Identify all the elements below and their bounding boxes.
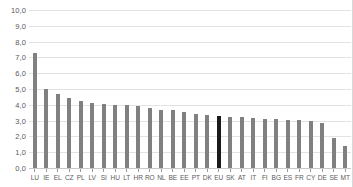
bar-slot — [213, 10, 225, 168]
bar-bg — [274, 119, 278, 168]
bar-cz — [67, 98, 71, 168]
y-axis: 10,09,08,07,06,05,04,03,02,01,00,0 — [0, 0, 29, 178]
x-axis-tick-mark — [184, 169, 185, 172]
x-axis-tick-label: ES — [283, 174, 292, 181]
x-axis-tick-label: EE — [180, 174, 189, 181]
x-axis-tick-label: LV — [89, 174, 96, 181]
bar-slot — [144, 10, 156, 168]
x-axis-tick-label: DK — [203, 174, 212, 181]
x-axis-tick-label: IT — [250, 174, 256, 181]
x-axis-slot: NL — [156, 169, 168, 187]
bar-it — [251, 118, 255, 168]
x-axis-tick-label: FR — [295, 174, 304, 181]
x-axis-slot: SE — [328, 169, 340, 187]
x-axis-tick-label: LT — [123, 174, 130, 181]
x-axis-tick-mark — [345, 169, 346, 172]
bar-ie — [44, 89, 48, 168]
x-axis-tick-mark — [57, 169, 58, 172]
x-axis-tick-mark — [276, 169, 277, 172]
x-axis-slot: HU — [110, 169, 122, 187]
bar-es — [286, 120, 290, 169]
x-axis-tick-label: EU — [214, 174, 223, 181]
bar-slot — [52, 10, 64, 168]
bar-se — [332, 138, 336, 168]
bar-slot — [225, 10, 237, 168]
bar-slot — [317, 10, 329, 168]
x-axis-slot: PL — [75, 169, 87, 187]
x-axis-tick-mark — [103, 169, 104, 172]
x-axis-tick-label: SK — [226, 174, 235, 181]
x-axis-tick-mark — [241, 169, 242, 172]
x-axis-slot: LU — [29, 169, 41, 187]
x-axis-tick-mark — [299, 169, 300, 172]
bar-slot — [282, 10, 294, 168]
x-axis-slot: BG — [271, 169, 283, 187]
x-axis-tick-mark — [218, 169, 219, 172]
x-axis-tick-label: CZ — [65, 174, 74, 181]
bar-lt — [125, 105, 129, 168]
x-axis-tick-label: AT — [238, 174, 246, 181]
y-axis-tick-label: 2,0 — [15, 132, 26, 141]
bar-slot — [236, 10, 248, 168]
y-axis-tick-label: 1,0 — [15, 148, 26, 157]
x-axis-slot: DE — [317, 169, 329, 187]
x-axis-slot: FR — [294, 169, 306, 187]
x-axis-slot: CZ — [64, 169, 76, 187]
x-axis: LUIEELCZPLLVSIHULTHRRONLBEEEPTDKEUSKATIT… — [29, 169, 351, 187]
bar-at — [240, 117, 244, 168]
x-axis-slot: IE — [41, 169, 53, 187]
bar-sk — [228, 117, 232, 168]
bar-slot — [202, 10, 214, 168]
x-axis-tick-label: SI — [101, 174, 107, 181]
x-axis-tick-label: DE — [318, 174, 327, 181]
x-axis-tick-mark — [287, 169, 288, 172]
bar-be — [171, 110, 175, 168]
bar-hu — [113, 105, 117, 168]
x-axis-tick-label: FI — [262, 174, 268, 181]
x-axis-slot: HR — [133, 169, 145, 187]
bar-dk — [205, 115, 209, 168]
x-axis-tick-label: NL — [157, 174, 165, 181]
bar-slot — [294, 10, 306, 168]
bar-fr — [297, 120, 301, 168]
x-axis-tick-mark — [264, 169, 265, 172]
x-axis-tick-label: HR — [134, 174, 143, 181]
bar-slot — [121, 10, 133, 168]
bar-lu — [33, 53, 37, 168]
bar-cy — [309, 121, 313, 168]
y-axis-tick-label: 7,0 — [15, 53, 26, 62]
bar-slot — [340, 10, 352, 168]
bar-nl — [159, 110, 163, 168]
x-axis-tick-mark — [230, 169, 231, 172]
x-axis-tick-mark — [195, 169, 196, 172]
y-axis-tick-label: 5,0 — [15, 85, 26, 94]
x-axis-tick-mark — [310, 169, 311, 172]
bar-slot — [190, 10, 202, 168]
y-axis-tick-label: 10,0 — [11, 6, 26, 15]
y-axis-tick-label: 0,0 — [15, 164, 26, 173]
bar-slot — [41, 10, 53, 168]
bar-fi — [263, 119, 267, 168]
bars-layer — [29, 10, 351, 168]
x-axis-tick-label: LU — [31, 174, 39, 181]
x-axis-tick-mark — [149, 169, 150, 172]
x-axis-tick-label: EL — [54, 174, 62, 181]
bar-slot — [98, 10, 110, 168]
bar-slot — [29, 10, 41, 168]
x-axis-tick-mark — [207, 169, 208, 172]
bar-highlight-eu — [217, 116, 221, 168]
x-axis-slot: DK — [202, 169, 214, 187]
x-axis-tick-mark — [161, 169, 162, 172]
bar-slot — [110, 10, 122, 168]
x-axis-tick-label: RO — [145, 174, 155, 181]
x-axis-tick-label: IE — [43, 174, 49, 181]
x-axis-slot: IT — [248, 169, 260, 187]
x-axis-tick-mark — [115, 169, 116, 172]
x-axis-tick-mark — [333, 169, 334, 172]
bar-slot — [87, 10, 99, 168]
x-axis-tick-mark — [172, 169, 173, 172]
bar-ee — [182, 112, 186, 168]
bar-slot — [156, 10, 168, 168]
x-axis-tick-mark — [80, 169, 81, 172]
bar-slot — [167, 10, 179, 168]
